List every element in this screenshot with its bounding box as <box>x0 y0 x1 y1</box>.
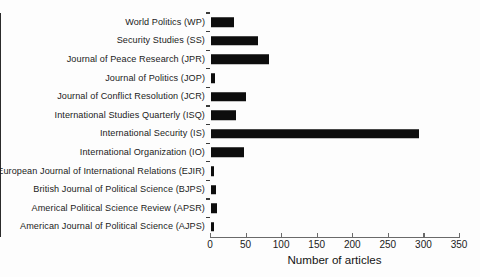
y-axis-tick <box>206 68 210 69</box>
bar-row: Americal Political Science Review (APSR) <box>210 199 459 218</box>
bar-row: Journal of Peace Research (JPR) <box>210 50 459 69</box>
category-label: Security Studies (SS) <box>117 36 205 45</box>
x-axis-tick-mark <box>281 233 282 238</box>
x-axis-tick-mark <box>317 233 318 238</box>
bar-row: International Security (IS) <box>210 125 459 144</box>
bar <box>211 222 214 232</box>
x-axis-tick-mark <box>352 233 353 238</box>
x-axis-tick-label: 50 <box>240 240 251 250</box>
x-axis-tick-label: 0 <box>207 240 213 250</box>
bar <box>211 111 236 121</box>
category-label: International Organization (IO) <box>80 148 205 157</box>
y-axis-tick <box>206 198 210 199</box>
x-axis-tick-mark <box>246 233 247 238</box>
bar-row: British Journal of Political Science (BJ… <box>210 180 459 199</box>
bar <box>211 203 217 213</box>
bar-row: European Journal of International Relati… <box>210 162 459 181</box>
y-axis-tick <box>206 143 210 144</box>
category-label: International Studies Quarterly (ISQ) <box>55 111 205 120</box>
x-axis-tick-label: 100 <box>273 240 290 250</box>
category-label: American Journal of Political Science (A… <box>20 222 205 231</box>
category-label: International Security (IS) <box>100 129 205 138</box>
bar <box>211 148 244 158</box>
x-axis-tick-label: 250 <box>380 240 397 250</box>
x-axis-tick-mark <box>388 233 389 238</box>
x-axis-title: Number of articles <box>210 254 459 266</box>
plot-area: World Politics (WP)Security Studies (SS)… <box>210 13 459 236</box>
bar <box>211 185 216 195</box>
x-axis-tick-mark <box>459 233 460 238</box>
category-label: British Journal of Political Science (BJ… <box>33 185 205 194</box>
bar-row: International Studies Quarterly (ISQ) <box>210 106 459 125</box>
x-axis-tick-mark <box>210 233 211 238</box>
y-axis-tick <box>206 124 210 125</box>
category-label: Americal Political Science Review (APSR) <box>32 204 205 213</box>
bar <box>211 129 419 139</box>
y-axis-tick <box>206 50 210 51</box>
bar-row: Journal of Politics (JOP) <box>210 69 459 88</box>
category-label: European Journal of International Relati… <box>0 167 205 176</box>
bar-row: Journal of Conflict Resolution (JCR) <box>210 87 459 106</box>
x-axis-tick-label: 300 <box>415 240 432 250</box>
x-axis-tick-label: 150 <box>308 240 325 250</box>
x-axis-tick-mark <box>423 233 424 238</box>
bar <box>211 92 246 102</box>
bar <box>211 166 214 176</box>
y-axis-tick <box>206 31 210 32</box>
bar-row: International Organization (IO) <box>210 143 459 162</box>
category-label: Journal of Peace Research (JPR) <box>67 55 205 64</box>
category-label: Journal of Politics (JOP) <box>105 74 205 83</box>
y-axis-line <box>0 13 1 237</box>
bar <box>211 73 215 83</box>
category-label: World Politics (WP) <box>125 18 205 27</box>
y-axis-tick <box>206 161 210 162</box>
bar <box>211 36 258 46</box>
x-axis-tick-label: 200 <box>344 240 361 250</box>
category-label: Journal of Conflict Resolution (JCR) <box>57 92 205 101</box>
bar-row: Security Studies (SS) <box>210 32 459 51</box>
bar <box>211 18 234 28</box>
y-axis-tick <box>206 12 210 13</box>
y-axis-tick <box>206 105 210 106</box>
x-axis-tick-label: 350 <box>451 240 468 250</box>
bar-row: World Politics (WP) <box>210 13 459 32</box>
bar-row: American Journal of Political Science (A… <box>210 218 459 237</box>
y-axis-tick <box>206 87 210 88</box>
bar-chart-figure: World Politics (WP)Security Studies (SS)… <box>0 0 480 277</box>
bar <box>211 55 269 65</box>
y-axis-tick <box>206 180 210 181</box>
y-axis-tick <box>206 217 210 218</box>
